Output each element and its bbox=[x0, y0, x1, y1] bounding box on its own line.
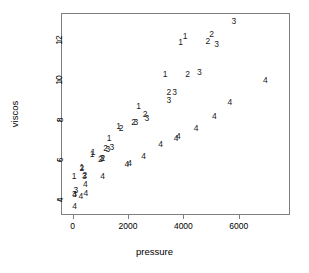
data-point: 1 bbox=[183, 31, 188, 40]
data-point: 1 bbox=[72, 171, 77, 180]
data-point: 4 bbox=[72, 201, 77, 210]
data-point: 2 bbox=[209, 30, 214, 39]
x-axis-tick bbox=[73, 215, 74, 219]
data-point: 2 bbox=[185, 70, 190, 79]
scatter-plot-figure: 4681012 0200040006000 111111111122222222… bbox=[0, 0, 309, 273]
data-point: 3 bbox=[110, 143, 115, 152]
x-axis-title: pressure bbox=[0, 246, 309, 257]
data-point: 4 bbox=[72, 190, 77, 199]
data-point: 3 bbox=[231, 17, 236, 26]
x-axis-tick-label: 2000 bbox=[119, 221, 138, 231]
x-axis-tick-label: 4000 bbox=[174, 221, 193, 231]
data-point: 4 bbox=[228, 98, 233, 107]
data-point: 4 bbox=[176, 132, 181, 141]
data-point: 4 bbox=[100, 172, 105, 181]
data-point: 3 bbox=[100, 154, 105, 163]
data-point: 3 bbox=[197, 68, 202, 77]
data-point: 3 bbox=[167, 95, 172, 104]
data-point: 3 bbox=[144, 113, 149, 122]
data-point: 4 bbox=[158, 139, 163, 148]
data-point: 3 bbox=[133, 117, 138, 126]
data-point: 1 bbox=[136, 101, 141, 110]
data-points-layer: 1111111111222222222222333333333333344444… bbox=[61, 13, 290, 215]
x-axis-tick-label: 6000 bbox=[229, 221, 248, 231]
data-point: 4 bbox=[212, 111, 217, 120]
data-point: 4 bbox=[141, 151, 146, 160]
x-axis-tick bbox=[183, 215, 184, 219]
data-point: 4 bbox=[194, 123, 199, 132]
data-point: 4 bbox=[83, 180, 88, 189]
data-point: 1 bbox=[91, 148, 96, 157]
x-axis-tick bbox=[128, 215, 129, 219]
data-point: 4 bbox=[263, 76, 268, 85]
data-point: 3 bbox=[214, 39, 219, 48]
data-point: 4 bbox=[84, 189, 89, 198]
data-point: 1 bbox=[163, 70, 168, 79]
data-point: 2 bbox=[119, 123, 124, 132]
data-point: 4 bbox=[127, 159, 132, 168]
data-point: 3 bbox=[172, 88, 177, 97]
x-axis-tick bbox=[239, 215, 240, 219]
x-axis-tick-label: 0 bbox=[70, 221, 75, 231]
y-axis-title: viscos bbox=[9, 101, 20, 127]
